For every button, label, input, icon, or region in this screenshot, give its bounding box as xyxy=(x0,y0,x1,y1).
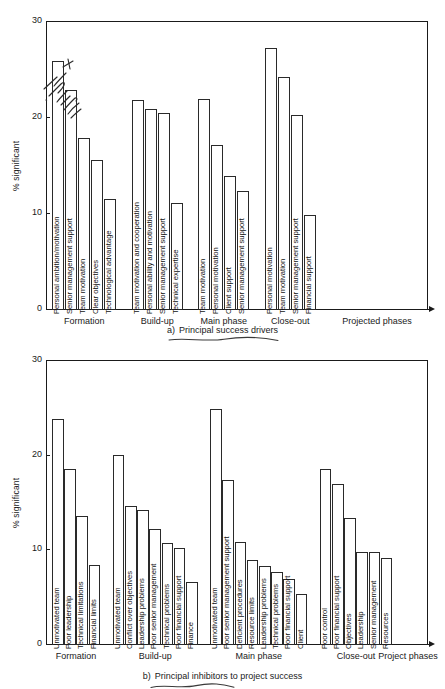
bar-label: Senior management support xyxy=(238,218,246,314)
bar-label: Objectives xyxy=(345,614,353,649)
caption-b: b)Principal inhibitors to project succes… xyxy=(0,671,445,682)
bar-label: Poor financial support xyxy=(175,576,183,649)
y-tick-label: 30 xyxy=(20,16,42,25)
y-tick xyxy=(46,21,50,22)
bar-label: Technical expertise xyxy=(172,249,180,314)
y-tick xyxy=(46,549,50,550)
caption-a-index: a) xyxy=(167,325,175,335)
bar-label: Technical limitations xyxy=(77,581,85,649)
bar-label: Senior management xyxy=(370,581,378,649)
bar-label: Personal motivation xyxy=(266,247,274,314)
bar-label: Poor financial support xyxy=(284,576,292,649)
bar-label: Senior management support xyxy=(292,218,300,314)
plot-area-b: 3020100% significantUnmotivated teamPoor… xyxy=(0,345,445,689)
plot-top-rule xyxy=(46,360,427,361)
bar-label: Unmotivated team xyxy=(114,587,122,649)
caption-a: a)Principal success drivers xyxy=(0,325,445,336)
bar-label: Finance xyxy=(187,622,195,649)
bar-label: Leadership xyxy=(357,611,365,649)
bar-label: Client support xyxy=(225,267,233,314)
group-label: Build-up xyxy=(105,651,205,661)
bar-label: Unmotivated team xyxy=(53,587,61,649)
bar-label: Financial limits xyxy=(90,599,98,649)
bar-label: Senior management support xyxy=(66,218,74,314)
y-axis-title: % significant xyxy=(12,478,21,528)
bar-label: Leadership problems xyxy=(138,578,146,649)
y-axis-title: % significant xyxy=(12,141,21,191)
y-tick-label: 10 xyxy=(20,208,42,217)
group-label: Project phases xyxy=(358,651,445,662)
bar-label: Personal motivation xyxy=(212,247,220,314)
bar-label: Resources xyxy=(382,613,390,649)
bar-label: Personal ability and motivation xyxy=(146,211,154,314)
plot-top-rule xyxy=(46,21,427,22)
plot-area-a: 3020100% significantPersonal ambition/mo… xyxy=(0,0,445,345)
bar-label: Leadership problems xyxy=(260,578,268,649)
y-tick-label: 0 xyxy=(20,304,42,313)
bar-label: Poor senior management xyxy=(150,564,158,649)
y-tick-label: 20 xyxy=(20,112,42,121)
bar-label: Personal ambition/motivation xyxy=(53,216,61,314)
caption-b-text: Principal inhibitors to project success xyxy=(155,671,303,681)
bar-label: Clear objectives xyxy=(92,260,100,314)
y-tick-label: 20 xyxy=(20,450,42,459)
bar-label: Resource limits xyxy=(248,597,256,649)
bar-label: Technical problems xyxy=(272,584,280,649)
bar-label: Team motivation and cooperation xyxy=(133,202,141,314)
bar-label: Poor financial support xyxy=(333,576,341,649)
bar-label: Conflict over objectives xyxy=(126,571,134,649)
plot-right-rule xyxy=(427,360,428,644)
bar-label: Senior management support xyxy=(159,218,167,314)
bar-label: Technical problems xyxy=(163,584,171,649)
y-tick xyxy=(46,360,50,361)
y-tick-label: 0 xyxy=(20,639,42,648)
bar-label: Poor leadership xyxy=(65,596,73,649)
y-tick-label: 30 xyxy=(20,355,42,364)
bar-label: Poor control xyxy=(321,608,329,649)
group-label: Main phase xyxy=(209,651,309,661)
x-axis-arrow-icon xyxy=(429,641,435,647)
bar-label: Deficient procedures xyxy=(236,579,244,649)
y-tick xyxy=(46,213,50,214)
y-tick-label: 10 xyxy=(20,544,42,553)
bar-label: Unmotivated team xyxy=(211,587,219,649)
bar-label: Team motivation xyxy=(279,259,287,314)
y-axis-line xyxy=(46,21,47,309)
caption-b-index: b) xyxy=(143,671,151,681)
y-axis-line xyxy=(46,360,47,644)
bar-label: Team motivation xyxy=(79,259,87,314)
plot-right-rule xyxy=(427,21,428,309)
caption-a-text: Principal success drivers xyxy=(179,325,278,335)
chart-a-principal-success-drivers: 3020100% significantPersonal ambition/mo… xyxy=(0,0,445,345)
bar-label: Financial support xyxy=(305,256,313,314)
y-tick xyxy=(46,117,50,118)
bar-label: Team motivation xyxy=(199,259,207,314)
bar-label: Poor senior management support xyxy=(223,536,231,649)
bar-label: Client xyxy=(297,630,305,649)
y-tick xyxy=(46,455,50,456)
bar-label: Technological advantage xyxy=(105,230,113,314)
chart-b-principal-inhibitors: 3020100% significantUnmotivated teamPoor… xyxy=(0,345,445,689)
x-axis-arrow-icon xyxy=(429,306,435,312)
